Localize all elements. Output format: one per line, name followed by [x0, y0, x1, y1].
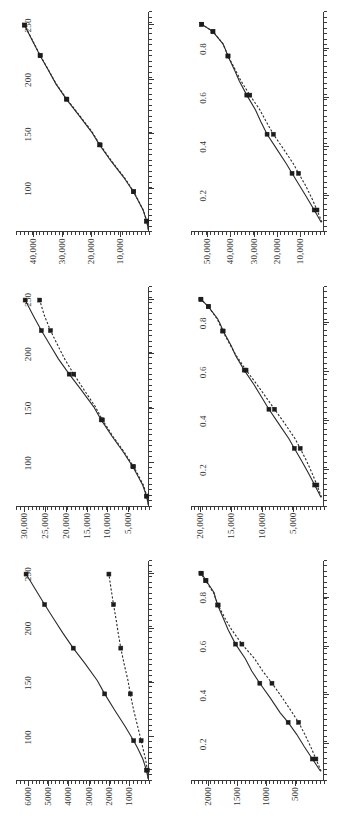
x-axis-minor-tick [149, 330, 152, 331]
y-axis-tick [262, 507, 263, 512]
x-axis-minor-tick [149, 286, 152, 287]
x-axis-tick [149, 408, 154, 409]
series-layer [191, 12, 324, 232]
x-axis-minor-tick [324, 769, 327, 770]
y-axis-tick-label: 10,000 [102, 513, 112, 547]
y-axis-tick-label: 5,000 [288, 513, 298, 547]
y-axis-minor-tick [137, 232, 138, 235]
x-axis-minor-tick [324, 593, 327, 594]
y-axis-minor-tick [226, 781, 227, 784]
x-axis-minor-tick [324, 692, 327, 693]
data-point-marker [103, 692, 107, 696]
y-axis-tick [45, 507, 46, 512]
x-axis-tick [149, 353, 154, 354]
y-axis-tick [230, 232, 231, 237]
x-axis-minor-tick [149, 709, 152, 710]
x-axis-minor-tick [149, 341, 152, 342]
x-axis-minor-tick [149, 149, 152, 150]
x-axis-minor-tick [324, 77, 327, 78]
x-axis-minor-tick [324, 560, 327, 561]
x-axis-minor-tick [149, 291, 152, 292]
y-axis-minor-tick [126, 507, 127, 510]
x-axis-minor-tick [324, 467, 327, 468]
y-axis-minor-tick [312, 232, 313, 235]
y-axis-minor-tick [222, 781, 223, 784]
y-axis-tick [266, 781, 267, 786]
y-axis-minor-tick [222, 507, 223, 510]
x-axis-minor-tick [149, 22, 152, 23]
y-axis-minor-tick [320, 232, 321, 235]
y-axis-minor-tick [55, 781, 56, 784]
y-axis-tick-label: 30,000 [19, 513, 29, 547]
y-axis-minor-tick [288, 507, 289, 510]
x-axis-minor-tick [324, 703, 327, 704]
y-axis-minor-tick [210, 781, 211, 784]
y-axis-minor-tick [214, 507, 215, 510]
plot-area: 10015020025010,00020,00030,00040,000 [16, 12, 149, 232]
x-axis-minor-tick [149, 742, 152, 743]
x-axis-minor-tick [149, 484, 152, 485]
x-axis-minor-tick [149, 659, 152, 660]
y-axis-minor-tick [126, 781, 127, 784]
x-axis-minor-tick [324, 209, 327, 210]
y-axis-minor-tick [20, 507, 21, 510]
y-axis-minor-tick [83, 507, 84, 510]
x-axis-minor-tick [149, 88, 152, 89]
y-axis-minor-tick [241, 507, 242, 510]
data-point-marker [132, 739, 136, 743]
x-axis-minor-tick [149, 44, 152, 45]
data-point-marker [271, 133, 275, 137]
x-axis-tick [149, 188, 154, 189]
x-axis-minor-tick [324, 138, 327, 139]
y-axis-minor-tick [79, 781, 80, 784]
y-axis-minor-tick [194, 232, 195, 235]
y-axis-minor-tick [218, 781, 219, 784]
x-axis-minor-tick [149, 588, 152, 589]
y-axis-tick [33, 232, 34, 237]
y-axis-tick [129, 781, 130, 786]
figure-rotation-wrapper: 100150200250100020003000400050006000 100… [0, 0, 349, 823]
y-axis-minor-tick [218, 232, 219, 235]
y-axis-tick [207, 232, 208, 237]
y-axis-minor-tick [202, 781, 203, 784]
data-point-marker [23, 298, 27, 302]
data-series-line [40, 300, 149, 505]
y-axis-minor-tick [288, 781, 289, 784]
y-axis-minor-tick [16, 781, 17, 784]
x-axis-tick [324, 371, 329, 372]
y-axis-minor-tick [300, 507, 301, 510]
x-axis-minor-tick [324, 297, 327, 298]
y-axis-tick [24, 507, 25, 512]
y-axis-minor-tick [59, 232, 60, 235]
x-axis-minor-tick [149, 368, 152, 369]
x-axis-minor-tick [149, 720, 152, 721]
data-point-marker [65, 97, 69, 101]
x-axis-minor-tick [324, 171, 327, 172]
y-axis-minor-tick [137, 781, 138, 784]
y-axis-tick [237, 781, 238, 786]
y-axis-minor-tick [24, 781, 25, 784]
y-axis-minor-tick [308, 232, 309, 235]
y-axis-minor-tick [71, 781, 72, 784]
y-axis-tick [120, 232, 121, 237]
x-axis-minor-tick [324, 291, 327, 292]
y-axis-minor-tick [273, 232, 274, 235]
x-axis-minor-tick [149, 610, 152, 611]
x-axis-tick [149, 24, 154, 25]
y-axis-minor-tick [245, 781, 246, 784]
x-axis-minor-tick [149, 99, 152, 100]
x-axis-minor-tick [324, 165, 327, 166]
data-point-marker [145, 219, 149, 223]
x-axis-minor-tick [324, 681, 327, 682]
x-axis-minor-tick [149, 571, 152, 572]
y-axis-minor-tick [265, 507, 266, 510]
x-axis-minor-tick [149, 500, 152, 501]
y-axis-minor-tick [145, 781, 146, 784]
y-axis-minor-tick [106, 781, 107, 784]
y-axis-minor-tick [230, 781, 231, 784]
y-axis-minor-tick [133, 781, 134, 784]
y-axis-minor-tick [102, 232, 103, 235]
data-point-marker [128, 692, 132, 696]
chart-panel: 0.20.40.60.810,00020,00030,00040,00050,0… [175, 0, 349, 274]
x-axis-minor-tick [324, 500, 327, 501]
